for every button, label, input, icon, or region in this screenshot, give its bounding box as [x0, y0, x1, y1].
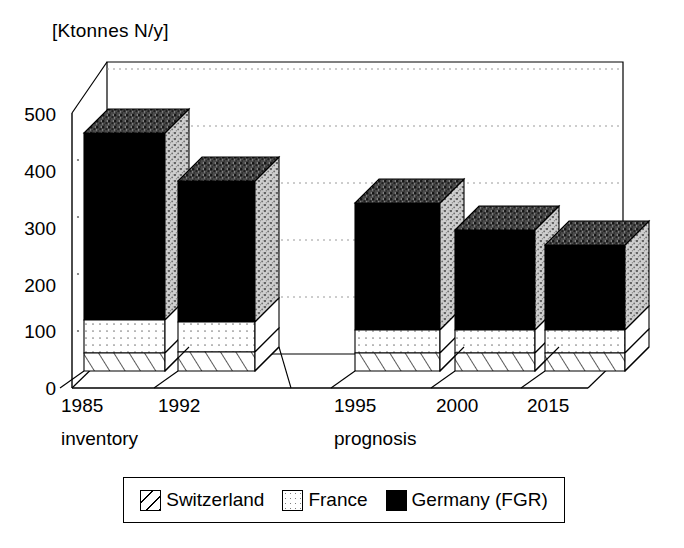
- legend-entry-france: France: [282, 489, 367, 511]
- x-tick-2000: 2000: [436, 395, 478, 417]
- bar-2015: [545, 221, 649, 371]
- bar-1995: [355, 179, 464, 371]
- axis-tick-marks: [77, 159, 79, 332]
- legend-entry-germany: Germany (FGR): [386, 489, 548, 511]
- y-tick-400: 400: [2, 161, 56, 183]
- y-tick-300: 300: [2, 218, 56, 240]
- stacked-bar-3d-plot: [0, 0, 684, 548]
- y-tick-200: 200: [2, 275, 56, 297]
- x-tick-2015: 2015: [527, 395, 569, 417]
- legend-label-france: France: [308, 489, 367, 511]
- bar-1992: [178, 157, 279, 371]
- y-tick-500: 500: [2, 104, 56, 126]
- x-tick-1992: 1992: [158, 395, 200, 417]
- bar-2000: [455, 206, 559, 371]
- dotted-swatch: [282, 490, 303, 511]
- hatch-swatch: [140, 490, 161, 511]
- chart-legend: Switzerland France Germany (FGR): [123, 477, 565, 523]
- y-tick-0: 0: [2, 378, 56, 400]
- y-tick-100: 100: [2, 321, 56, 343]
- bar-1985: [84, 109, 189, 371]
- legend-label-switzerland: Switzerland: [166, 489, 264, 511]
- y-axis-unit-title: [Ktonnes N/y]: [52, 20, 169, 42]
- black-swatch: [386, 490, 407, 511]
- x-tick-1995: 1995: [334, 395, 376, 417]
- legend-entry-switzerland: Switzerland: [140, 489, 264, 511]
- legend-label-germany: Germany (FGR): [412, 489, 548, 511]
- x-tick-1985: 1985: [61, 395, 103, 417]
- group-label-inventory: inventory: [61, 428, 138, 450]
- chart-figure: [Ktonnes N/y]: [0, 0, 684, 548]
- group-label-prognosis: prognosis: [334, 428, 416, 450]
